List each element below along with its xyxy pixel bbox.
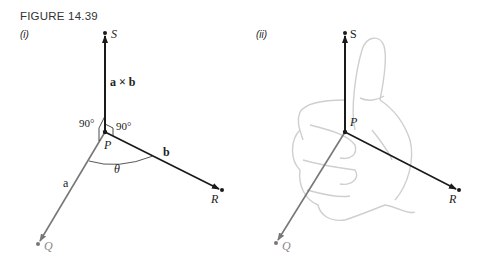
vector-r-ii bbox=[345, 132, 456, 189]
label-axb: a × b bbox=[110, 75, 136, 90]
vector-q-ii bbox=[278, 132, 345, 240]
label-r-ii: R bbox=[449, 192, 456, 207]
label-s: S bbox=[111, 27, 117, 42]
point-q-ii bbox=[274, 241, 278, 245]
point-p-ii bbox=[343, 130, 347, 134]
point-s-ii bbox=[343, 31, 347, 35]
label-p-ii: P bbox=[350, 115, 357, 130]
point-q bbox=[36, 242, 40, 246]
theta-arc bbox=[89, 156, 153, 165]
label-theta: θ bbox=[114, 162, 120, 177]
panel-i-diagram bbox=[36, 31, 224, 246]
label-s-ii: S bbox=[350, 27, 357, 42]
point-r-ii bbox=[457, 188, 461, 192]
label-p: P bbox=[104, 138, 111, 153]
vector-a bbox=[40, 132, 105, 241]
vector-b bbox=[105, 132, 219, 189]
label-r: R bbox=[211, 192, 218, 207]
label-angle-left: 90° bbox=[79, 117, 94, 129]
point-p bbox=[103, 130, 107, 134]
point-s bbox=[103, 31, 107, 35]
label-b: b bbox=[163, 145, 170, 160]
label-a: a bbox=[63, 176, 68, 191]
diagram-canvas bbox=[0, 0, 480, 270]
label-q-ii: Q bbox=[282, 239, 291, 254]
point-r bbox=[220, 188, 224, 192]
label-angle-right: 90° bbox=[116, 120, 131, 132]
label-q: Q bbox=[44, 239, 53, 254]
